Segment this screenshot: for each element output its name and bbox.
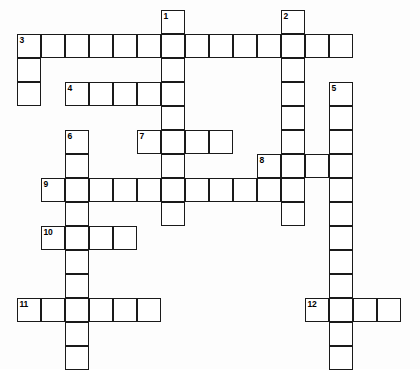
crossword-cell[interactable] xyxy=(185,178,209,202)
crossword-cell[interactable] xyxy=(209,34,233,58)
crossword-cell[interactable] xyxy=(329,34,353,58)
clue-number-11: 11 xyxy=(20,299,29,309)
crossword-cell[interactable] xyxy=(137,82,161,106)
crossword-cell[interactable] xyxy=(137,34,161,58)
crossword-cell[interactable] xyxy=(137,298,161,322)
crossword-cell[interactable] xyxy=(41,298,65,322)
crossword-cell[interactable] xyxy=(113,82,137,106)
crossword-cell[interactable] xyxy=(161,154,185,178)
crossword-cell[interactable] xyxy=(65,322,89,346)
crossword-cell[interactable] xyxy=(161,130,185,154)
crossword-cell[interactable] xyxy=(329,130,353,154)
crossword-cell[interactable] xyxy=(209,130,233,154)
crossword-cell[interactable] xyxy=(329,202,353,226)
crossword-cell[interactable] xyxy=(353,298,377,322)
crossword-cell[interactable] xyxy=(137,178,161,202)
crossword-cell[interactable]: 5 xyxy=(329,82,353,106)
crossword-cell[interactable] xyxy=(281,106,305,130)
crossword-cell[interactable] xyxy=(281,58,305,82)
crossword-cell[interactable] xyxy=(161,58,185,82)
crossword-cell[interactable] xyxy=(281,130,305,154)
crossword-cell[interactable] xyxy=(281,82,305,106)
crossword-cell[interactable]: 2 xyxy=(281,10,305,34)
crossword-cell[interactable] xyxy=(281,34,305,58)
crossword-cell[interactable] xyxy=(281,154,305,178)
crossword-cell[interactable] xyxy=(17,82,41,106)
crossword-cell[interactable] xyxy=(281,202,305,226)
clue-number-1: 1 xyxy=(164,11,169,21)
clue-number-10: 10 xyxy=(44,227,53,237)
crossword-cell[interactable]: 1 xyxy=(161,10,185,34)
clue-number-12: 12 xyxy=(308,299,317,309)
crossword-cell[interactable] xyxy=(329,154,353,178)
crossword-cell[interactable]: 7 xyxy=(137,130,161,154)
crossword-cell[interactable] xyxy=(113,298,137,322)
crossword-cell[interactable] xyxy=(65,298,89,322)
crossword-cell[interactable] xyxy=(89,226,113,250)
crossword-cell[interactable] xyxy=(65,202,89,226)
clue-number-6: 6 xyxy=(68,131,73,141)
crossword-cell[interactable] xyxy=(161,82,185,106)
crossword-cell[interactable] xyxy=(257,34,281,58)
crossword-cell[interactable] xyxy=(161,178,185,202)
crossword-cell[interactable] xyxy=(161,202,185,226)
crossword-cell[interactable] xyxy=(113,226,137,250)
crossword-cell[interactable] xyxy=(329,250,353,274)
crossword-cell[interactable] xyxy=(329,322,353,346)
crossword-cell[interactable] xyxy=(329,178,353,202)
clue-number-9: 9 xyxy=(44,179,49,189)
crossword-cell[interactable] xyxy=(113,34,137,58)
crossword-cell[interactable] xyxy=(65,346,89,370)
crossword-cell[interactable] xyxy=(65,250,89,274)
crossword-cell[interactable] xyxy=(305,154,329,178)
clue-number-5: 5 xyxy=(332,83,337,93)
crossword-cell[interactable]: 10 xyxy=(41,226,65,250)
crossword-cell[interactable] xyxy=(41,34,65,58)
crossword-cell[interactable] xyxy=(161,106,185,130)
crossword-cell[interactable] xyxy=(113,178,137,202)
crossword-cell[interactable] xyxy=(305,34,329,58)
crossword-cell[interactable] xyxy=(65,154,89,178)
crossword-cell[interactable]: 8 xyxy=(257,154,281,178)
crossword-cell[interactable] xyxy=(377,298,401,322)
crossword-cell[interactable]: 3 xyxy=(17,34,41,58)
crossword-cell[interactable] xyxy=(89,178,113,202)
crossword-cell[interactable] xyxy=(89,298,113,322)
crossword-cell[interactable]: 11 xyxy=(17,298,41,322)
crossword-cell[interactable] xyxy=(329,226,353,250)
crossword-cell[interactable] xyxy=(65,178,89,202)
crossword-cell[interactable] xyxy=(329,274,353,298)
crossword-cell[interactable] xyxy=(185,130,209,154)
crossword-cell[interactable]: 6 xyxy=(65,130,89,154)
crossword-cell[interactable] xyxy=(185,34,209,58)
clue-number-7: 7 xyxy=(140,131,145,141)
crossword-cell[interactable] xyxy=(65,274,89,298)
crossword-cell[interactable] xyxy=(257,178,281,202)
crossword-cell[interactable] xyxy=(329,346,353,370)
clue-number-4: 4 xyxy=(68,83,73,93)
clue-number-8: 8 xyxy=(260,155,265,165)
crossword-cell[interactable]: 12 xyxy=(305,298,329,322)
clue-number-3: 3 xyxy=(20,35,25,45)
crossword-cell[interactable] xyxy=(281,178,305,202)
crossword-cell[interactable] xyxy=(89,82,113,106)
crossword-cell[interactable] xyxy=(65,34,89,58)
crossword-cell[interactable] xyxy=(17,58,41,82)
crossword-cell[interactable] xyxy=(161,34,185,58)
clue-number-2: 2 xyxy=(284,11,289,21)
crossword-cell[interactable] xyxy=(329,106,353,130)
crossword-cell[interactable] xyxy=(233,178,257,202)
crossword-cell[interactable] xyxy=(89,34,113,58)
crossword-cell[interactable] xyxy=(209,178,233,202)
crossword-cell[interactable] xyxy=(233,34,257,58)
crossword-cell[interactable]: 4 xyxy=(65,82,89,106)
crossword-cell[interactable]: 9 xyxy=(41,178,65,202)
crossword-cell[interactable] xyxy=(65,226,89,250)
crossword-cell[interactable] xyxy=(329,298,353,322)
